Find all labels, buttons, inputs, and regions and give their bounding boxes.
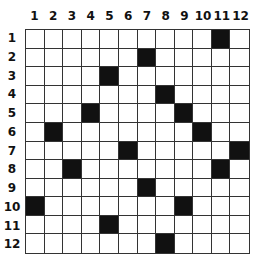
grid-cell-empty (45, 179, 64, 198)
grid-cell-empty (100, 197, 119, 216)
grid-cell-empty (230, 49, 249, 68)
grid-cell-empty (26, 86, 45, 105)
grid-cell-empty (230, 216, 249, 235)
grid-cell-empty (212, 49, 231, 68)
grid-cell-empty (193, 142, 212, 161)
grid-cell-empty (82, 86, 101, 105)
column-label: 1 (25, 8, 44, 24)
grid-cell-empty (212, 216, 231, 235)
grid-cell-empty (82, 216, 101, 235)
grid-cell-empty (138, 160, 157, 179)
column-label: 9 (175, 8, 194, 24)
grid-cell-empty (119, 216, 138, 235)
grid-cell-filled (82, 104, 101, 123)
row-label: 2 (0, 48, 24, 67)
grid-cell-filled (156, 234, 175, 253)
grid-cell-empty (63, 216, 82, 235)
grid-cell-empty (193, 30, 212, 49)
grid-cell-empty (230, 104, 249, 123)
column-label: 11 (213, 8, 232, 24)
grid-cell-empty (138, 142, 157, 161)
column-label: 10 (194, 8, 213, 24)
grid-cell-empty (230, 179, 249, 198)
grid-cell-filled (175, 197, 194, 216)
column-label: 12 (231, 8, 250, 24)
grid-cell-empty (156, 104, 175, 123)
grid-cell-empty (45, 86, 64, 105)
grid-cell-empty (82, 67, 101, 86)
grid-cell-empty (26, 142, 45, 161)
grid-cell-filled (175, 104, 194, 123)
grid-cell-empty (175, 123, 194, 142)
grid-cell-empty (156, 49, 175, 68)
grid-cell-filled (100, 216, 119, 235)
grid-cell-filled (63, 160, 82, 179)
grid-cell-empty (193, 86, 212, 105)
grid-cell-empty (63, 197, 82, 216)
grid-cell-empty (119, 30, 138, 49)
grid-cell-empty (63, 104, 82, 123)
grid-cell-empty (82, 234, 101, 253)
grid-cell-empty (193, 160, 212, 179)
grid-cell-empty (119, 123, 138, 142)
grid-cell-filled (156, 86, 175, 105)
grid-cell-empty (82, 197, 101, 216)
column-label: 3 (63, 8, 82, 24)
grid-cell-empty (193, 104, 212, 123)
grid-cell-empty (156, 123, 175, 142)
grid-cell-empty (212, 179, 231, 198)
grid-cell-empty (138, 123, 157, 142)
grid-cell-filled (100, 67, 119, 86)
row-label: 12 (0, 235, 24, 254)
grid-cell-empty (100, 160, 119, 179)
row-label: 1 (0, 29, 24, 48)
grid-cell-empty (45, 49, 64, 68)
grid-cell-empty (100, 179, 119, 198)
grid-cell-empty (230, 86, 249, 105)
grid-cell-empty (119, 197, 138, 216)
grid-cell-empty (45, 197, 64, 216)
grid-cell-empty (100, 234, 119, 253)
row-label: 7 (0, 142, 24, 161)
grid-cell-empty (100, 30, 119, 49)
grid-cell-empty (119, 234, 138, 253)
grid-cell-empty (100, 49, 119, 68)
grid-cell-empty (26, 234, 45, 253)
grid-cell-empty (100, 123, 119, 142)
grid-cell-empty (45, 104, 64, 123)
grid-cell-empty (212, 123, 231, 142)
grid-cell-empty (193, 216, 212, 235)
grid-cell-empty (175, 234, 194, 253)
grid-cell-empty (156, 142, 175, 161)
grid-cell-empty (175, 142, 194, 161)
row-label: 11 (0, 217, 24, 236)
row-label: 3 (0, 67, 24, 86)
grid-cell-empty (82, 30, 101, 49)
grid-cell-filled (230, 142, 249, 161)
grid-cell-empty (138, 67, 157, 86)
grid-cell-empty (82, 160, 101, 179)
grid-cell-empty (230, 30, 249, 49)
puzzle-grid (25, 29, 250, 254)
grid-cell-empty (138, 30, 157, 49)
grid-cell-empty (175, 160, 194, 179)
grid-cell-empty (63, 142, 82, 161)
column-labels: 123456789101112 (25, 8, 250, 24)
grid-cell-empty (63, 123, 82, 142)
grid-cell-empty (175, 49, 194, 68)
grid-cell-empty (175, 179, 194, 198)
grid-cell-empty (45, 67, 64, 86)
grid-cell-empty (119, 179, 138, 198)
grid-cell-empty (193, 67, 212, 86)
grid-cell-empty (175, 67, 194, 86)
grid-cell-empty (212, 197, 231, 216)
grid-cell-empty (82, 142, 101, 161)
grid-cell-filled (138, 49, 157, 68)
grid-cell-empty (156, 30, 175, 49)
grid-cell-filled (212, 160, 231, 179)
row-label: 10 (0, 198, 24, 217)
row-label: 6 (0, 123, 24, 142)
grid-cell-empty (138, 197, 157, 216)
grid-cell-empty (45, 160, 64, 179)
grid-cell-empty (26, 49, 45, 68)
